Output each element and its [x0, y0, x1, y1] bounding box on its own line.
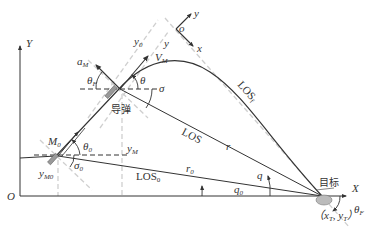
theta-label: θ — [140, 74, 146, 86]
origin-label: O — [7, 190, 15, 202]
q-arc — [268, 176, 270, 196]
theta0-label: θ0 — [83, 140, 92, 154]
sigma-label: σ — [159, 82, 165, 94]
q0-label: q0 — [234, 183, 244, 197]
los-label: LOS — [180, 125, 204, 145]
body-x-label: x — [196, 42, 202, 54]
r0-label: r0 — [186, 162, 194, 176]
target-icon — [316, 195, 332, 205]
missile-trajectory — [20, 61, 322, 196]
q-label: q — [257, 169, 263, 181]
world-axes — [20, 46, 346, 196]
losf-label: LOSf — [234, 78, 260, 105]
guidance-geometry-diagram: O Y X o y x y0 y VM aM θF θ — [0, 0, 374, 235]
thetaF-arc — [96, 72, 102, 89]
target-label: 目标 — [319, 177, 339, 188]
y-frame-label: y — [163, 37, 169, 49]
target-thetaF-label: θF — [354, 203, 364, 217]
m0-label: M0 — [47, 135, 61, 149]
velocity-label: VM — [155, 51, 169, 65]
thetaF-label: θF — [87, 74, 97, 88]
sigma0-label: σ0 — [74, 159, 83, 173]
los0-label: LOS0 — [136, 170, 161, 184]
initial-velocity-vector — [58, 132, 78, 156]
target-coords: （xT, yT） — [313, 209, 358, 223]
acceleration-vector — [96, 65, 120, 89]
y0-label: y0 — [133, 35, 143, 49]
r-label: r — [226, 140, 231, 152]
body-origin-label: o — [179, 22, 185, 34]
missile-label: 导弹 — [111, 103, 131, 115]
ym-label: yM — [126, 142, 139, 156]
x-axis-label: X — [351, 182, 360, 194]
ym0-label: yM0 — [38, 167, 54, 181]
initial-velocity-double — [62, 128, 85, 156]
accel-label: aM — [77, 55, 90, 69]
y-axis-label: Y — [26, 37, 34, 49]
body-y-label: y — [193, 7, 199, 19]
target-icon-detail — [316, 188, 334, 190]
